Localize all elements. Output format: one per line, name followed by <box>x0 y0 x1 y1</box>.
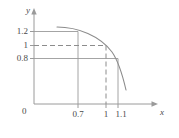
y-axis-arrow-icon <box>31 8 36 15</box>
y-tick-label-1point2: 1.2 <box>4 27 28 36</box>
x-tick-label-1point1: 1.1 <box>110 110 132 119</box>
chart-figure: y x 0 1.2 1 0.8 0.7 1 1.1 <box>0 0 179 138</box>
y-tick-label-1: 1 <box>4 41 28 50</box>
x-axis-label: x <box>160 108 164 117</box>
x-tick-label-0point7: 0.7 <box>66 110 90 119</box>
origin-label: 0 <box>22 107 27 116</box>
x-axis-arrow-icon <box>152 101 159 106</box>
y-tick-label-0point8: 0.8 <box>4 54 28 63</box>
y-axis-label: y <box>26 6 30 15</box>
